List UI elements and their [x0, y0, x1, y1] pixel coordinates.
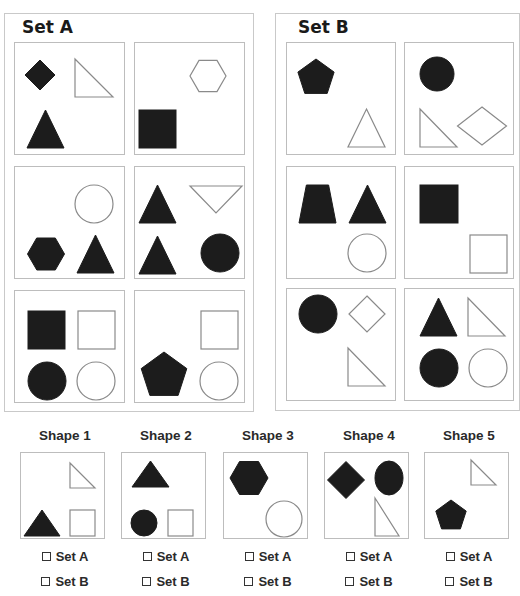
checkbox-icon[interactable]: [143, 552, 152, 561]
option-label: Set B: [55, 574, 88, 589]
option-label: Set A: [360, 549, 393, 564]
option-label: Set A: [56, 549, 89, 564]
question-figure-box: [223, 452, 308, 539]
circle-icon: [77, 362, 115, 400]
option-set-a[interactable]: Set A: [424, 549, 514, 564]
pentagon-icon: [436, 500, 466, 529]
option-set-b[interactable]: Set B: [223, 574, 313, 589]
shapes-figure: [325, 453, 410, 540]
option-set-a[interactable]: Set A: [20, 549, 110, 564]
checkbox-icon[interactable]: [42, 552, 51, 561]
option-set-a[interactable]: Set A: [324, 549, 414, 564]
question-shape-3: Shape 3 Set A Set B: [223, 428, 313, 446]
question-figure-box: [20, 452, 105, 539]
inverted-triangle-icon: [190, 186, 242, 213]
circle-icon: [131, 510, 157, 536]
set-b-cell-1: [286, 42, 396, 155]
square-icon: [28, 311, 65, 349]
diamond-icon: [349, 296, 385, 332]
shapes-figure: [135, 43, 246, 156]
set-a-cell-5: [14, 290, 125, 403]
option-set-b[interactable]: Set B: [20, 574, 110, 589]
checkbox-icon[interactable]: [445, 577, 454, 586]
option-set-b[interactable]: Set B: [121, 574, 211, 589]
circle-icon: [201, 234, 239, 272]
square-icon: [70, 510, 95, 536]
shapes-figure: [425, 453, 510, 540]
set-b-panel: Set B: [275, 13, 520, 411]
checkbox-icon[interactable]: [346, 552, 355, 561]
set-a-panel: Set A: [4, 13, 254, 412]
right-triangle-icon: [75, 59, 113, 97]
question-shape-2: Shape 2 Set A Set B: [121, 428, 211, 446]
circle-icon: [299, 295, 337, 333]
option-set-b[interactable]: Set B: [324, 574, 414, 589]
option-label: Set B: [258, 574, 291, 589]
question-title: Shape 4: [324, 428, 414, 446]
hexagon-icon: [190, 60, 226, 91]
question-figure-box: [424, 452, 509, 539]
set-b-cell-4: [404, 166, 514, 279]
diamond-wide-icon: [458, 107, 507, 145]
trapezoid-icon: [299, 185, 336, 223]
circle-icon: [348, 234, 386, 272]
right-triangle-icon: [375, 498, 399, 536]
checkbox-icon[interactable]: [245, 552, 254, 561]
shapes-figure: [405, 43, 515, 156]
set-a-cell-2: [134, 42, 245, 155]
square-icon: [470, 235, 507, 273]
set-a-cell-6: [134, 290, 245, 403]
option-set-a[interactable]: Set A: [121, 549, 211, 564]
triangle-icon: [420, 298, 457, 336]
hexagon-icon: [230, 462, 268, 495]
question-shape-5: Shape 5 Set A Set B: [424, 428, 514, 446]
question-title: Shape 2: [121, 428, 211, 446]
set-b-cell-3: [286, 166, 396, 279]
square-icon: [139, 110, 176, 148]
right-triangle-icon: [420, 109, 457, 147]
right-triangle-icon: [471, 460, 496, 485]
square-icon: [78, 311, 115, 349]
shapes-figure: [287, 289, 397, 402]
shapes-figure: [405, 167, 515, 280]
shapes-figure: [15, 291, 126, 404]
triangle-icon: [349, 185, 386, 223]
circle-icon: [420, 57, 454, 91]
circle-icon: [28, 362, 66, 400]
checkbox-icon[interactable]: [41, 577, 50, 586]
pentagon-icon: [141, 352, 187, 395]
diamond-icon: [25, 60, 55, 90]
square-icon: [201, 311, 238, 349]
shapes-figure: [224, 453, 309, 540]
checkbox-icon[interactable]: [142, 577, 151, 586]
option-label: Set A: [460, 549, 493, 564]
triangle-icon: [139, 236, 176, 274]
option-label: Set B: [156, 574, 189, 589]
question-figure-box: [324, 452, 409, 539]
checkbox-icon[interactable]: [446, 552, 455, 561]
checkbox-icon[interactable]: [244, 577, 253, 586]
option-set-b[interactable]: Set B: [424, 574, 514, 589]
right-triangle-icon: [70, 463, 95, 488]
shapes-figure: [15, 167, 126, 280]
circle-icon: [266, 501, 302, 537]
shapes-figure: [21, 453, 106, 540]
question-shape-4: Shape 4 Set A Set B: [324, 428, 414, 446]
checkbox-icon[interactable]: [345, 577, 354, 586]
set-b-cell-6: [404, 288, 514, 401]
diamond-icon: [328, 462, 365, 499]
question-title: Shape 5: [424, 428, 514, 446]
ellipse-icon: [375, 461, 403, 495]
set-b-cell-2: [404, 42, 514, 155]
question-shape-1: Shape 1 Set A Set B: [20, 428, 110, 446]
set-a-title: Set A: [22, 17, 73, 37]
option-set-a[interactable]: Set A: [223, 549, 313, 564]
triangle-icon: [27, 110, 64, 148]
shapes-figure: [122, 453, 207, 540]
option-label: Set B: [459, 574, 492, 589]
set-a-cell-1: [14, 42, 125, 155]
set-a-cell-4: [134, 166, 245, 279]
circle-icon: [75, 185, 113, 223]
shapes-figure: [405, 289, 515, 402]
triangle-icon: [132, 461, 169, 487]
